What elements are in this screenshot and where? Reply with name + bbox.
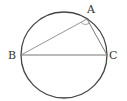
point-c-label: C [109, 49, 117, 62]
segment-ab [21, 19, 87, 55]
point-b-label: B [8, 49, 16, 62]
circle-diagram: A B C [0, 0, 127, 101]
segment-ac [87, 19, 107, 55]
angle-a-arc-mark [81, 22, 89, 24]
point-a-label: A [86, 3, 96, 16]
